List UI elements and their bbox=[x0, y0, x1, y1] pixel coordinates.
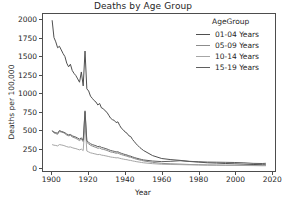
y-axis-tick-label: 1750 bbox=[18, 33, 37, 42]
page-title: Deaths by Age Group bbox=[0, 1, 286, 11]
y-axis-tick-mark bbox=[39, 168, 42, 169]
y-axis-tick-mark bbox=[39, 56, 42, 57]
x-axis-tick-mark bbox=[51, 172, 52, 175]
legend-item-label: 15-19 Years bbox=[215, 63, 259, 72]
x-axis-tick-mark bbox=[235, 172, 236, 175]
legend-item-3[interactable]: 10-14 Years bbox=[196, 51, 259, 62]
y-axis-tick-mark bbox=[39, 93, 42, 94]
y-axis-tick-label: 750 bbox=[23, 107, 37, 116]
y-axis-tick-mark bbox=[39, 19, 42, 20]
x-axis-tick-mark bbox=[88, 172, 89, 175]
y-axis-tick-mark bbox=[39, 38, 42, 39]
legend-line-icon bbox=[196, 67, 210, 68]
x-axis-tick-label: 1960 bbox=[152, 175, 171, 184]
y-axis-tick-label: 2000 bbox=[18, 14, 37, 23]
legend-item-2[interactable]: 05-09 Years bbox=[196, 40, 259, 51]
chart-figure: Deaths by Age Group Deaths per 100,000 Y… bbox=[0, 0, 286, 203]
legend-item-label: 01-04 Years bbox=[215, 30, 259, 39]
x-axis-tick-mark bbox=[125, 172, 126, 175]
y-axis-tick-mark bbox=[39, 130, 42, 131]
y-axis-tick-label: 500 bbox=[23, 126, 37, 135]
y-axis-tick-label: 1500 bbox=[18, 52, 37, 61]
x-axis-tick-mark bbox=[272, 172, 273, 175]
x-axis-tick-label: 2000 bbox=[226, 175, 245, 184]
y-axis-tick-mark bbox=[39, 112, 42, 113]
legend-items: 01-04 Years05-09 Years10-14 Years15-19 Y… bbox=[196, 29, 259, 73]
y-axis-tick-mark bbox=[39, 149, 42, 150]
legend-item-label: 05-09 Years bbox=[215, 41, 259, 50]
legend-line-icon bbox=[196, 56, 210, 57]
y-axis-tick-label: 0 bbox=[32, 163, 37, 172]
x-axis-tick-label: 1980 bbox=[189, 175, 208, 184]
legend: AgeGroup 01-04 Years05-09 Years10-14 Yea… bbox=[196, 17, 259, 73]
x-axis-tick-label: 2020 bbox=[263, 175, 282, 184]
y-axis-label: Deaths per 100,000 bbox=[7, 64, 16, 139]
x-axis-tick-label: 1920 bbox=[79, 175, 98, 184]
x-axis-tick-mark bbox=[199, 172, 200, 175]
legend-title: AgeGroup bbox=[212, 17, 259, 26]
legend-item-4[interactable]: 15-19 Years bbox=[196, 62, 259, 73]
x-axis-tick-mark bbox=[162, 172, 163, 175]
legend-item-label: 10-14 Years bbox=[215, 52, 259, 61]
x-axis-tick-label: 1940 bbox=[115, 175, 134, 184]
x-axis-label: Year bbox=[0, 188, 286, 197]
y-axis-tick-label: 1250 bbox=[18, 70, 37, 79]
legend-item-1[interactable]: 01-04 Years bbox=[196, 29, 259, 40]
y-axis-tick-mark bbox=[39, 75, 42, 76]
x-axis-tick-label: 1900 bbox=[42, 175, 61, 184]
y-axis-tick-label: 1000 bbox=[18, 89, 37, 98]
legend-line-icon bbox=[196, 34, 210, 35]
legend-line-icon bbox=[196, 45, 210, 46]
y-axis-tick-label: 250 bbox=[23, 144, 37, 153]
